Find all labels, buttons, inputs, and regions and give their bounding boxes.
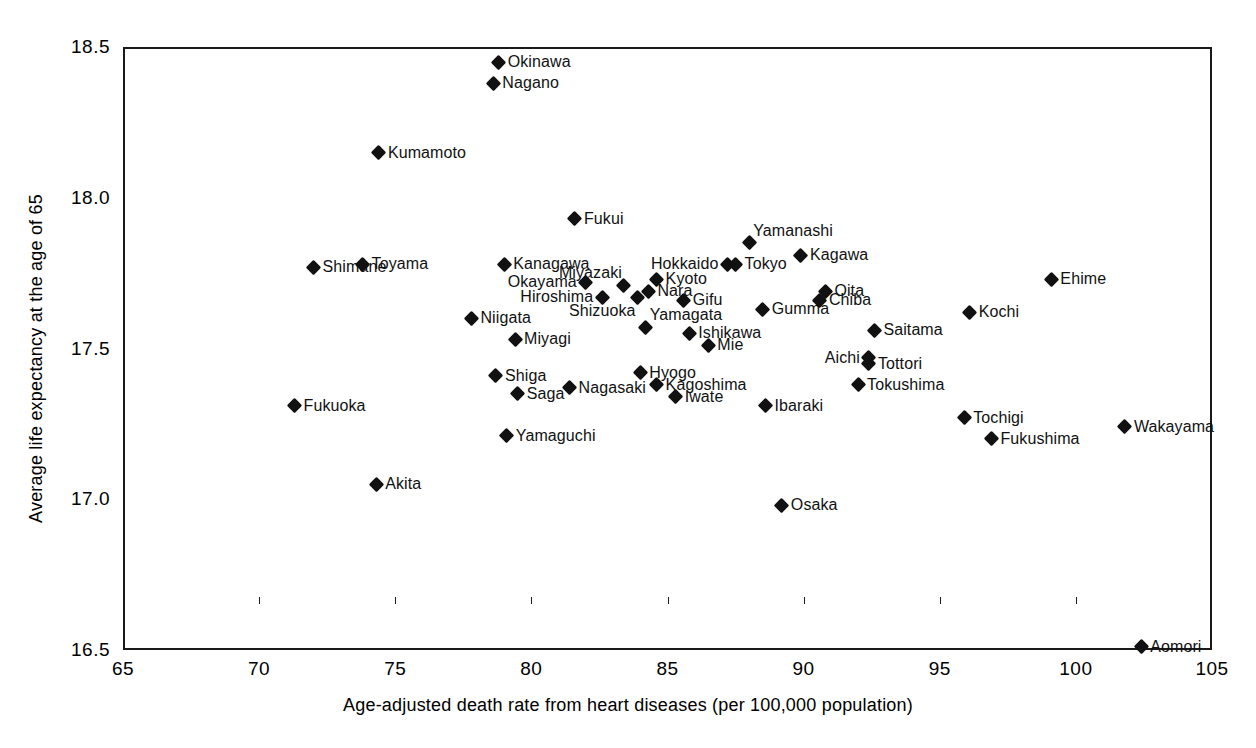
data-point-label: Miyagi	[524, 331, 571, 347]
x-axis-tick	[804, 597, 805, 604]
x-axis-tick	[259, 597, 260, 604]
data-point-label: Miyazaki	[559, 265, 622, 281]
data-point-label: Shimane	[323, 259, 387, 275]
data-point-label: Yamaguchi	[516, 428, 596, 444]
data-point-label: Wakayama	[1134, 419, 1214, 435]
data-point-label: Tochigi	[973, 410, 1024, 426]
scatter-chart: 65707580859095100105 16.517.017.518.018.…	[0, 0, 1256, 748]
x-axis-tick-label: 80	[520, 658, 542, 680]
plot-area	[123, 47, 1212, 650]
data-point-label: Yamanashi	[753, 223, 833, 239]
y-axis-tick-label: 17.0	[71, 488, 110, 510]
x-axis-tick	[940, 597, 941, 604]
data-point-label: Ibaraki	[775, 398, 824, 414]
data-point-label: Saga	[527, 386, 565, 402]
data-point-label: Mie	[717, 337, 743, 353]
data-point-label: Gumma	[772, 301, 829, 317]
data-point-label: Kumamoto	[388, 145, 466, 161]
data-point-label: Aomori	[1150, 639, 1201, 655]
data-point-label: Niigata	[480, 310, 531, 326]
data-point-label: Shiga	[505, 368, 546, 384]
y-axis-tick-label: 16.5	[71, 639, 110, 661]
x-axis-tick	[668, 597, 669, 604]
x-axis-tick-label: 70	[248, 658, 270, 680]
data-point-label: Aichi	[825, 350, 860, 366]
data-point-label: Nagasaki	[578, 380, 646, 396]
x-axis-tick-label: 65	[112, 658, 134, 680]
x-axis-tick-label: 100	[1059, 658, 1092, 680]
data-point-label: Osaka	[791, 497, 838, 513]
y-axis-tick-label: 18.5	[71, 36, 110, 58]
data-point-label: Kochi	[979, 304, 1020, 320]
data-point-label: Tokyo	[745, 256, 787, 272]
data-point-label: Okinawa	[508, 54, 571, 70]
data-point-label: Kagawa	[810, 247, 868, 263]
data-point-label: Shizuoka	[569, 303, 636, 319]
x-axis-tick-label: 85	[656, 658, 678, 680]
data-point-label: Tottori	[878, 356, 922, 372]
x-axis-tick	[395, 597, 396, 604]
x-axis-tick	[1076, 597, 1077, 604]
x-axis-tick	[531, 597, 532, 604]
data-point-label: Yamagata	[650, 307, 723, 323]
data-point-label: Fukuoka	[304, 398, 366, 414]
y-axis-tick-label: 17.5	[71, 338, 110, 360]
data-point-label: Ehime	[1060, 271, 1106, 287]
x-axis-tick-label: 90	[793, 658, 815, 680]
x-axis-tick-label: 105	[1195, 658, 1228, 680]
data-point-label: Fukushima	[1000, 431, 1079, 447]
data-point-label: Tokushima	[867, 377, 944, 393]
x-axis-tick-label: 75	[384, 658, 406, 680]
data-point-label: Nagano	[502, 75, 559, 91]
y-axis-tick-label: 18.0	[71, 187, 110, 209]
data-point-label: Saitama	[883, 322, 942, 338]
data-point-label: Chiba	[829, 292, 871, 308]
x-axis-tick-label: 95	[929, 658, 951, 680]
data-point-label: Iwate	[685, 389, 724, 405]
data-point-label: Akita	[385, 476, 421, 492]
y-axis-title: Average life expectancy at the age of 65	[26, 59, 47, 659]
x-axis-title: Age-adjusted death rate from heart disea…	[0, 695, 1256, 716]
data-point-label: Fukui	[584, 211, 624, 227]
